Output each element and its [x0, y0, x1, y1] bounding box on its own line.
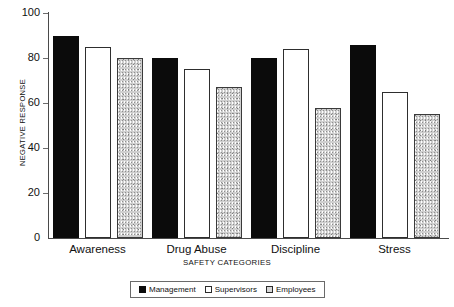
legend-item: Management — [139, 285, 196, 294]
y-axis-tick-label: 20 — [10, 187, 40, 198]
legend-item-label: Management — [149, 285, 196, 294]
legend-swatch-icon — [139, 286, 146, 293]
bar — [184, 69, 210, 238]
bar — [251, 58, 277, 238]
bar — [414, 114, 440, 238]
bar-group — [53, 13, 143, 238]
y-axis-tick-label: 60 — [10, 97, 40, 108]
y-axis-tick-mark — [43, 13, 48, 14]
bar-group — [152, 13, 242, 238]
bar — [283, 49, 309, 238]
y-axis-tick-mark — [43, 193, 48, 194]
x-axis-line — [48, 238, 449, 239]
bar — [350, 45, 376, 239]
bar — [315, 108, 341, 239]
plot-area — [48, 13, 444, 238]
bar — [216, 87, 242, 238]
bar — [53, 36, 79, 239]
y-axis-tick-mark — [43, 103, 48, 104]
x-axis-category-label: Stress — [345, 243, 444, 255]
legend-item-label: Employees — [276, 285, 316, 294]
legend-item-label: Supervisors — [215, 285, 257, 294]
y-axis-tick-label: 0 — [10, 232, 40, 243]
y-axis-tick-label: 80 — [10, 52, 40, 63]
bar-group — [350, 13, 440, 238]
x-axis-category-label: Drug Abuse — [147, 243, 246, 255]
bar — [382, 92, 408, 238]
chart-legend: ManagementSupervisorsEmployees — [130, 281, 325, 298]
legend-swatch-icon — [266, 286, 273, 293]
y-axis-tick-mark — [43, 58, 48, 59]
y-axis-tick-label: 40 — [10, 142, 40, 153]
y-axis-tick-mark — [43, 148, 48, 149]
legend-item: Employees — [266, 285, 316, 294]
y-axis-tick-label: 100 — [10, 7, 40, 18]
legend-swatch-icon — [205, 286, 212, 293]
bar-chart: NEGATIVE RESPONSE 020406080100 SAFETY CA… — [0, 0, 454, 307]
bar — [85, 47, 111, 238]
bar — [152, 58, 178, 238]
x-axis-category-label: Awareness — [48, 243, 147, 255]
bar — [117, 58, 143, 238]
legend-item: Supervisors — [205, 285, 257, 294]
x-axis-category-label: Discipline — [246, 243, 345, 255]
bar-group — [251, 13, 341, 238]
x-axis-title: SAFETY CATEGORIES — [0, 258, 454, 267]
